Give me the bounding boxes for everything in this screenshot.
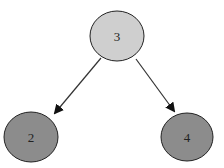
node-2-label: 2 — [28, 130, 35, 145]
tree-diagram: 3 2 4 — [0, 0, 224, 168]
node-3-label: 3 — [114, 29, 121, 44]
node-3: 3 — [90, 11, 144, 61]
edge-3-to-2 — [55, 58, 101, 113]
node-4-label: 4 — [184, 130, 191, 145]
edge-3-to-4 — [136, 59, 174, 111]
node-4: 4 — [161, 113, 213, 161]
node-2: 2 — [4, 112, 58, 162]
